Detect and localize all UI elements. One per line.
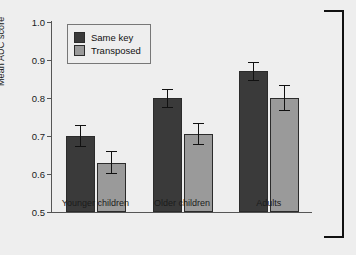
error-bar-cap (279, 110, 290, 111)
chart-legend: Same key Transposed (67, 24, 151, 64)
legend-label-same-key: Same key (91, 32, 133, 43)
error-bar-cap (162, 89, 173, 90)
error-bar-cap (248, 62, 259, 63)
error-bar (284, 85, 285, 112)
y-tick-label: 0.8 (32, 93, 45, 104)
error-bar (111, 151, 112, 174)
error-bar-cap (162, 107, 173, 108)
bar (239, 71, 268, 212)
bar (153, 98, 182, 212)
error-bar-cap (193, 123, 204, 124)
y-tick-label: 0.5 (32, 207, 45, 218)
bar-group (139, 22, 226, 212)
x-axis-category-label: Older children (154, 198, 210, 208)
error-bar (253, 62, 254, 81)
error-bar (167, 89, 168, 108)
error-bar-cap (279, 85, 290, 86)
y-axis-title: Mean AUC score (0, 17, 6, 86)
x-axis-line (51, 212, 312, 213)
error-bar (80, 125, 81, 148)
x-axis-category-label: Younger children (62, 198, 129, 208)
y-tick-mark (47, 212, 52, 213)
legend-item: Same key (74, 32, 141, 43)
y-tick-label: 1.0 (32, 17, 45, 28)
bar (270, 98, 299, 212)
bar-chart-figure: Mean AUC score 1.00.90.80.70.60.5 Younge… (0, 0, 356, 255)
error-bar (198, 123, 199, 146)
y-tick-label: 0.7 (32, 131, 45, 142)
error-bar-cap (106, 173, 117, 174)
bar-group (225, 22, 312, 212)
legend-item: Transposed (74, 45, 141, 56)
error-bar-cap (75, 146, 86, 147)
error-bar-cap (193, 144, 204, 145)
legend-swatch-transposed (74, 45, 85, 56)
y-tick-label: 0.9 (32, 55, 45, 66)
error-bar-cap (106, 151, 117, 152)
error-bar-cap (75, 125, 86, 126)
legend-label-transposed: Transposed (91, 45, 141, 56)
y-tick-label: 0.6 (32, 169, 45, 180)
error-bar-cap (248, 80, 259, 81)
panel-bracket (324, 10, 344, 238)
x-axis-category-label: Adults (256, 198, 281, 208)
legend-swatch-same-key (74, 32, 85, 43)
